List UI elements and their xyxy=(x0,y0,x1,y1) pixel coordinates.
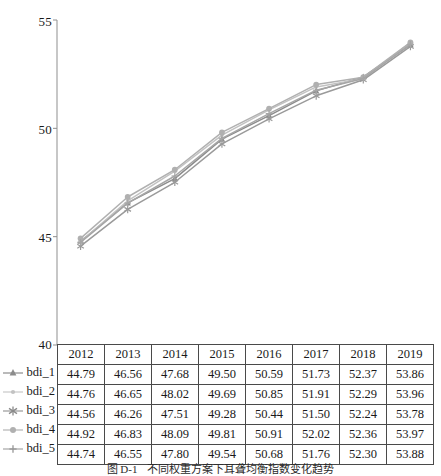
table-header-cell-2019: 2019 xyxy=(387,345,434,365)
table-cell-bdi_5-2015: 49.54 xyxy=(199,445,246,465)
table-cell-bdi_3-2013: 46.26 xyxy=(105,405,152,425)
table-cell-bdi_3-2012: 44.56 xyxy=(58,405,105,425)
table-cell-bdi_2-2018: 52.29 xyxy=(340,385,387,405)
chart-series-bdi_1 xyxy=(77,41,413,244)
table-cell-bdi_2-2012: 44.76 xyxy=(58,385,105,405)
table-cell-bdi_3-2018: 52.24 xyxy=(340,405,387,425)
table-cell-bdi_4-2013: 46.83 xyxy=(105,425,152,445)
table-cell-bdi_5-2016: 50.68 xyxy=(246,445,293,465)
table-cell-bdi_1-2018: 52.37 xyxy=(340,365,387,385)
legend-item-bdi_2[interactable]: bdi_2 xyxy=(0,382,57,401)
table-header-row: 20122013201420152016201720182019 xyxy=(58,345,434,365)
table-cell-bdi_3-2014: 47.51 xyxy=(152,405,199,425)
figure-caption-text: 不同权重方案下耳聋均衡指数变化趋势 xyxy=(147,463,334,475)
table-cell-bdi_1-2014: 47.68 xyxy=(152,365,199,385)
table-cell-bdi_1-2015: 49.50 xyxy=(199,365,246,385)
chart-svg xyxy=(0,0,441,346)
table-header-cell-2017: 2017 xyxy=(293,345,340,365)
legend-label-bdi_4: bdi_4 xyxy=(27,423,55,436)
table-row: 44.7446.5547.8049.5450.6851.7652.3053.88 xyxy=(58,445,434,465)
table-header-cell-2018: 2018 xyxy=(340,345,387,365)
legend-marker-circle-icon xyxy=(2,423,24,437)
table-cell-bdi_4-2012: 44.92 xyxy=(58,425,105,445)
legend-label-bdi_5: bdi_5 xyxy=(27,442,55,455)
data-table-body: 2012201320142015201620172018201944.7946.… xyxy=(58,345,434,465)
legend-marker-triangle-icon xyxy=(2,366,24,380)
figure-caption-number: 图 D-1 xyxy=(107,463,138,475)
table-cell-bdi_2-2017: 51.91 xyxy=(293,385,340,405)
table-cell-bdi_5-2018: 52.30 xyxy=(340,445,387,465)
table-cell-bdi_4-2017: 52.02 xyxy=(293,425,340,445)
table-row: 44.9246.8348.0949.8150.9152.0252.3653.97 xyxy=(58,425,434,445)
table-cell-bdi_2-2016: 50.85 xyxy=(246,385,293,405)
table-cell-bdi_3-2016: 50.44 xyxy=(246,405,293,425)
table-cell-bdi_2-2019: 53.96 xyxy=(387,385,434,405)
table-cell-bdi_4-2014: 48.09 xyxy=(152,425,199,445)
table-row: 44.7946.5647.6849.5050.5951.7352.3753.86 xyxy=(58,365,434,385)
table-cell-bdi_3-2017: 51.50 xyxy=(293,405,340,425)
table-cell-bdi_5-2012: 44.74 xyxy=(58,445,105,465)
legend-label-bdi_3: bdi_3 xyxy=(27,404,55,417)
table-cell-bdi_1-2016: 50.59 xyxy=(246,365,293,385)
data-table: 2012201320142015201620172018201944.7946.… xyxy=(57,344,434,465)
chart-series-bdi_5 xyxy=(77,41,413,246)
table-cell-bdi_3-2019: 53.78 xyxy=(387,405,434,425)
table-header-cell-2013: 2013 xyxy=(105,345,152,365)
table-row: 44.7646.6548.0249.6950.8551.9152.2953.96 xyxy=(58,385,434,405)
legend-label-bdi_2: bdi_2 xyxy=(27,385,55,398)
table-cell-bdi_2-2015: 49.69 xyxy=(199,385,246,405)
legend-item-bdi_4[interactable]: bdi_4 xyxy=(0,420,57,439)
figure-caption: 图 D-1不同权重方案下耳聋均衡指数变化趋势 xyxy=(0,463,441,476)
table-cell-bdi_1-2012: 44.79 xyxy=(58,365,105,385)
table-cell-bdi_4-2019: 53.97 xyxy=(387,425,434,445)
table-cell-bdi_5-2013: 46.55 xyxy=(105,445,152,465)
legend-marker-asterisk-icon xyxy=(2,404,24,418)
table-cell-bdi_5-2014: 47.80 xyxy=(152,445,199,465)
chart-series-bdi_2 xyxy=(79,41,413,244)
legend-marker-dot-small-icon xyxy=(2,385,24,399)
table-cell-bdi_4-2018: 52.36 xyxy=(340,425,387,445)
table-cell-bdi_1-2019: 53.86 xyxy=(387,365,434,385)
legend-item-bdi_3[interactable]: bdi_3 xyxy=(0,401,57,420)
table-cell-bdi_5-2019: 53.88 xyxy=(387,445,434,465)
table-header-cell-2016: 2016 xyxy=(246,345,293,365)
table-header-cell-2015: 2015 xyxy=(199,345,246,365)
table-row: 44.5646.2647.5149.2850.4451.5052.2453.78 xyxy=(58,405,434,425)
table-header-cell-2014: 2014 xyxy=(152,345,199,365)
legend-item-bdi_1[interactable]: bdi_1 xyxy=(0,363,57,382)
table-cell-bdi_1-2013: 46.56 xyxy=(105,365,152,385)
table-cell-bdi_5-2017: 51.76 xyxy=(293,445,340,465)
table-cell-bdi_3-2015: 49.28 xyxy=(199,405,246,425)
legend-label-bdi_1: bdi_1 xyxy=(27,366,55,379)
figure-container: 55 50 45 40 bdi_1 bdi_2 xyxy=(0,0,441,476)
legend-item-bdi_5[interactable]: bdi_5 xyxy=(0,439,57,458)
table-cell-bdi_2-2013: 46.65 xyxy=(105,385,152,405)
table-header-cell-2012: 2012 xyxy=(58,345,105,365)
table-cell-bdi_4-2016: 50.91 xyxy=(246,425,293,445)
legend-marker-plus-icon xyxy=(2,442,24,456)
y-axis xyxy=(53,20,57,345)
line-chart-plot: 55 50 45 40 xyxy=(0,0,441,346)
table-cell-bdi_4-2015: 49.81 xyxy=(199,425,246,445)
table-cell-bdi_2-2014: 48.02 xyxy=(152,385,199,405)
table-cell-bdi_1-2017: 51.73 xyxy=(293,365,340,385)
